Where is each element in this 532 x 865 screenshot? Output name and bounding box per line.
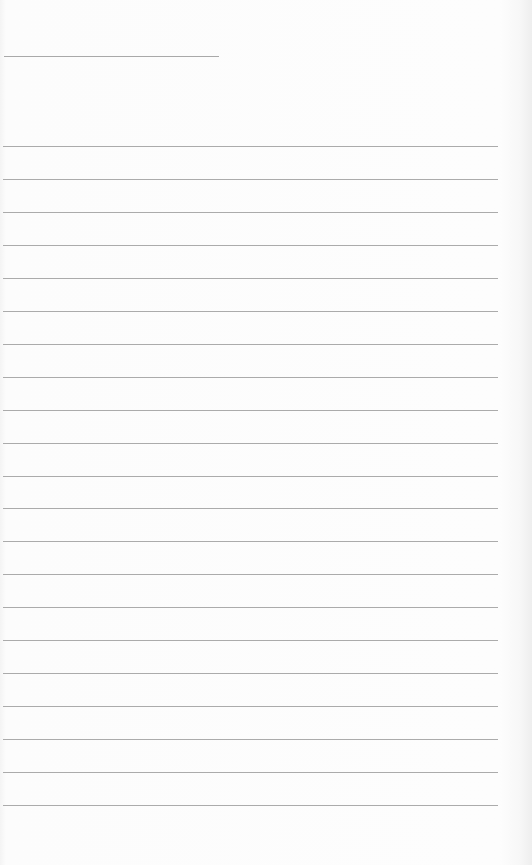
ruled-line bbox=[3, 146, 498, 147]
ruled-line bbox=[3, 739, 498, 740]
ruled-line bbox=[3, 772, 498, 773]
ruled-line bbox=[3, 278, 498, 279]
ruled-line bbox=[3, 179, 498, 180]
ruled-line bbox=[3, 706, 498, 707]
ruled-line bbox=[3, 212, 498, 213]
ruled-line bbox=[3, 640, 498, 641]
ruled-line bbox=[3, 311, 498, 312]
ruled-line bbox=[3, 410, 498, 411]
ruled-line bbox=[3, 673, 498, 674]
ruled-line bbox=[3, 476, 498, 477]
lined-paper-page bbox=[0, 0, 532, 865]
ruled-line bbox=[3, 344, 498, 345]
ruled-line bbox=[3, 607, 498, 608]
ruled-line bbox=[3, 377, 498, 378]
ruled-line bbox=[3, 443, 498, 444]
ruled-line bbox=[3, 541, 498, 542]
ruled-lines bbox=[3, 0, 498, 865]
ruled-line bbox=[3, 574, 498, 575]
ruled-line bbox=[3, 508, 498, 509]
ruled-line bbox=[3, 805, 498, 806]
ruled-line bbox=[3, 245, 498, 246]
